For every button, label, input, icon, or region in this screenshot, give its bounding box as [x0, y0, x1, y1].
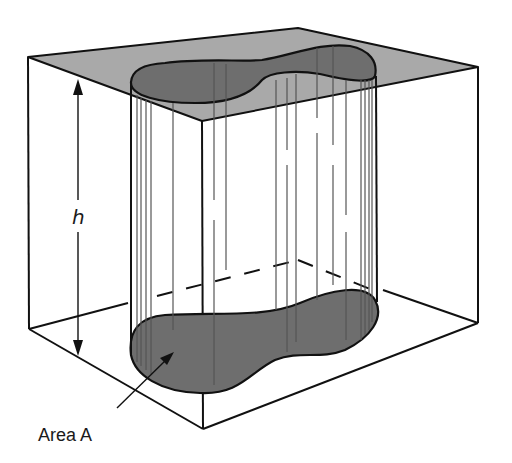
area-label: Area A	[38, 425, 92, 445]
prism-diagram: h Area A	[0, 0, 512, 463]
base-area	[131, 290, 379, 393]
height-label: h	[72, 205, 85, 229]
figure-canvas: h Area A	[0, 0, 512, 463]
